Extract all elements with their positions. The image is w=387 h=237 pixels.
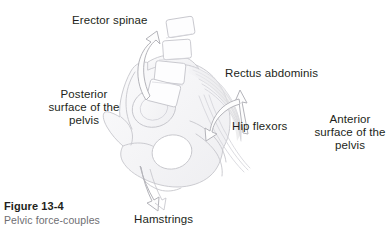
lumbar-vertebrae-group: [146, 16, 195, 107]
hamstrings-arrow: [140, 166, 166, 211]
label-hip-flexors: Hip flexors: [232, 120, 287, 133]
ischial-tuberosity: [143, 179, 181, 191]
superior-pubic-ramus: [190, 121, 226, 162]
sacrum: [148, 55, 199, 70]
vertebra-body-3: [154, 60, 186, 84]
vertebra-body-2: [162, 39, 191, 60]
label-anterior-surface-of-the-pelvis: Anterior surface of the pelvis: [314, 113, 386, 152]
erector-spinae-arrow: [138, 31, 160, 100]
vertebra-body-4: [146, 79, 181, 108]
label-erector-spinae: Erector spinae: [72, 14, 148, 27]
label-hamstrings: Hamstrings: [134, 213, 193, 226]
sciatic-notch: [123, 143, 164, 158]
label-rectus-abdominis: Rectus abdominis: [225, 67, 318, 80]
iliac-fossa-line: [126, 72, 135, 129]
figure-caption-text: Pelvic force-couples: [4, 214, 100, 226]
figure-container: Erector spinae Rectus abdominis Posterio…: [0, 0, 387, 237]
acetabulum-inner: [137, 92, 171, 123]
hamstrings-arrow-second-stroke: [150, 169, 166, 210]
pubic-ramus: [196, 134, 222, 176]
obturator-foramen: [149, 131, 195, 173]
vertebra-disc-lines: [152, 34, 192, 85]
vertebra-body-1: [166, 16, 195, 38]
label-posterior-surface-of-the-pelvis: Posterior surface of the pelvis: [41, 88, 127, 127]
hip-flexor-muscle: [199, 95, 250, 172]
figure-caption-number: Figure 13-4: [4, 200, 64, 212]
acetabulum: [127, 83, 181, 133]
